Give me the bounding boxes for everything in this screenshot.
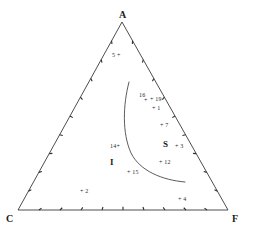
data-point-label: + 15 <box>127 169 139 175</box>
data-point-label: + 12 <box>159 159 171 165</box>
data-point-label: + 3 <box>175 143 183 149</box>
ternary-diagram-figure: A C F I S 5 +16++ 19+ 1+ 7+ 314++ 12+ 15… <box>0 0 253 238</box>
data-point-label: + 2 <box>80 188 88 194</box>
data-point-label: 14+ <box>110 143 120 149</box>
data-point-label: + 7 <box>160 122 168 128</box>
data-point-labels: 5 +16++ 19+ 1+ 7+ 314++ 12+ 15+ 2+ 4 <box>0 0 253 238</box>
data-point-label: + 4 <box>178 196 186 202</box>
data-point-label: + 1 <box>152 105 160 111</box>
data-point-label: + <box>144 97 148 103</box>
data-point-label: + 19 <box>150 96 162 102</box>
data-point-label: 5 + <box>112 52 120 58</box>
